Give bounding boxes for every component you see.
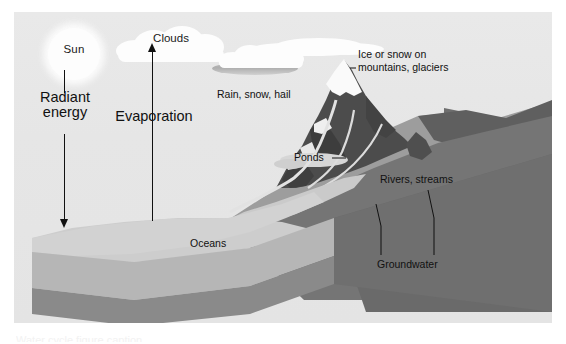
rain-snow-hail-label: Rain, snow, hail	[217, 88, 291, 101]
clouds-label: Clouds	[116, 32, 226, 44]
mountain-snow-cap	[326, 59, 362, 96]
figure-canvas: Sun Clouds Radiant energy	[0, 0, 566, 344]
radiant-energy-arrow-shaft-bottom	[64, 134, 65, 221]
rain-cloud	[218, 44, 304, 68]
rain-cloud-puff-4	[276, 50, 304, 68]
groundwater-label: Groundwater	[377, 258, 438, 271]
radiant-energy-arrowhead	[60, 219, 68, 228]
cut-off-caption: Water cycle figure caption	[16, 334, 216, 342]
ponds-label: Ponds	[294, 151, 324, 164]
evaporation-label: Evaporation	[106, 108, 202, 124]
ice-snow-mountains-label: Ice or snow on mountains, glaciers	[358, 48, 448, 73]
oceans-label: Oceans	[190, 237, 226, 250]
evaporation-arrow-shaft	[152, 50, 153, 221]
radiant-energy-label: Radiant energy	[26, 90, 104, 120]
sun-label: Sun	[48, 43, 100, 55]
water-cycle-scene: Sun Clouds Radiant energy	[14, 12, 552, 323]
rivers-streams-label: Rivers, streams	[380, 173, 453, 186]
